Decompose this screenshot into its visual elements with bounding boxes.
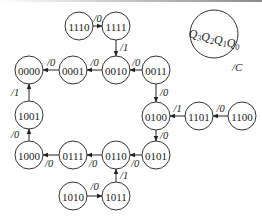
transition-label: /0 — [90, 57, 100, 68]
transition-label: /0 — [10, 129, 20, 140]
transition-label: /0 — [159, 87, 169, 98]
state-0111: 0111 — [59, 141, 87, 169]
state-label: 1100 — [231, 111, 253, 123]
state-0110: 0110 — [102, 141, 130, 169]
state-0011: 0011 — [142, 56, 170, 84]
transition-label: /0 — [46, 57, 56, 68]
legend-output-label: /C — [231, 61, 243, 73]
state-1101: 1101 — [185, 102, 213, 130]
state-label: 1010 — [62, 191, 85, 203]
state-label: 1000 — [18, 150, 41, 162]
state-label: 1111 — [106, 21, 127, 33]
transition-0100-to-0101: /0 — [156, 130, 169, 142]
transition-1101-to-0100: /1 — [170, 103, 185, 116]
state-1110: 1110 — [65, 12, 93, 40]
transition-label: /1 — [119, 170, 128, 181]
state-label: 0001 — [62, 65, 84, 77]
transition-0101-to-0110: /0 — [130, 155, 142, 169]
state-1011: 1011 — [102, 182, 130, 210]
state-1001: 1001 — [15, 101, 43, 129]
legend: Q3Q2Q1Q0 /C — [189, 10, 243, 73]
state-1010: 1010 — [59, 182, 87, 210]
transition-0010-to-0001: /0 — [87, 57, 102, 70]
state-label: 0000 — [18, 65, 41, 77]
transition-label: /1 — [119, 42, 128, 53]
transition-0011-to-0100: /0 — [156, 84, 169, 102]
transition-label: /0 — [130, 158, 140, 169]
transition-label: /1 — [173, 103, 182, 114]
transition-0001-to-0000: /0 — [43, 57, 59, 70]
transition-1011-to-0110: /1 — [116, 169, 128, 182]
state-label: 1011 — [105, 191, 127, 203]
transition-label: /0 — [44, 158, 54, 169]
transition-0011-to-0010: /0 — [130, 57, 142, 70]
state-label: 1110 — [68, 21, 90, 33]
transition-1010-to-1011: /0 — [87, 181, 102, 196]
transition-1111-to-0010: /1 — [116, 40, 128, 56]
transition-label: /0 — [131, 57, 141, 68]
transition-0110-to-0111: /0 — [87, 155, 102, 169]
state-1111: 1111 — [102, 12, 130, 40]
state-label: 0010 — [105, 65, 128, 77]
transition-1000-to-1001: /0 — [10, 129, 29, 141]
state-label: 0101 — [145, 150, 167, 162]
state-label: 0100 — [145, 111, 168, 123]
state-label: 0110 — [105, 150, 127, 162]
state-0010: 0010 — [102, 56, 130, 84]
state-1000: 1000 — [15, 141, 43, 169]
transition-label: /0 — [216, 103, 226, 114]
transition-1110-to-1111: /0 — [93, 13, 103, 26]
transition-label: /0 — [90, 181, 100, 192]
state-label: 0111 — [62, 150, 83, 162]
state-0100: 0100 — [142, 102, 170, 130]
state-0000: 0000 — [15, 56, 43, 84]
state-1100: 1100 — [228, 102, 256, 130]
transition-1001-to-0000: /1 — [10, 84, 29, 101]
state-diagram: /0/1/0/0/0/0/1/0/0/0/0/0/0/1/0/1 1110111… — [0, 0, 262, 223]
state-0001: 0001 — [59, 56, 87, 84]
state-0101: 0101 — [142, 141, 170, 169]
state-label: 1101 — [188, 111, 210, 123]
transition-label: /0 — [159, 130, 169, 141]
transition-label: /0 — [88, 158, 98, 169]
transition-0111-to-1000: /0 — [43, 155, 59, 169]
state-label: 0011 — [145, 65, 167, 77]
transition-label: /1 — [10, 87, 19, 98]
state-label: 1001 — [18, 110, 40, 122]
transition-label: /0 — [93, 13, 103, 24]
transition-1100-to-1101: /0 — [213, 103, 228, 116]
